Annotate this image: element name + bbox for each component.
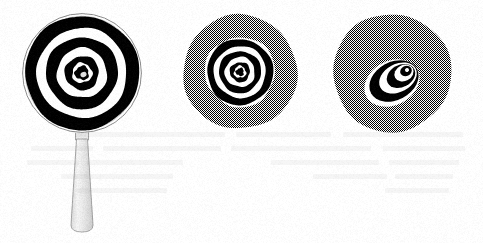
bullseye-targets-canvas	[0, 0, 483, 243]
bullseye-targets-figure: Three concentric-ring bullseye targets	[0, 0, 483, 243]
